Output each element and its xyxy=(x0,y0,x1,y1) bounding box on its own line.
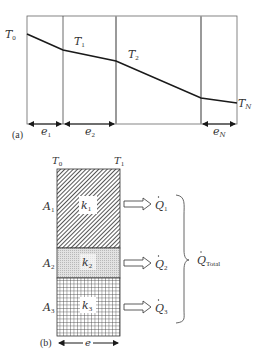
wall-frame xyxy=(27,16,237,124)
label-q2: Q2 xyxy=(155,258,168,272)
label-e2: e2 xyxy=(85,125,96,139)
heat-flow-arrow-3 xyxy=(124,301,151,313)
label-a3: A3 xyxy=(42,301,55,315)
label-q-total: QTotal xyxy=(197,254,220,268)
summation-brace xyxy=(176,195,189,323)
label-en: eN xyxy=(213,125,227,139)
label-e: e xyxy=(85,337,91,348)
figure-a-multilayer-wall: T0 T1 T2 TN e1 e2 eN (a) xyxy=(5,16,252,141)
label-face-t1: T1 xyxy=(114,155,125,168)
q1-dot xyxy=(158,196,159,197)
composite-wall-diagram: T0 T1 T2 TN e1 e2 eN (a) T0 T1 k1 k2 k3 … xyxy=(0,0,260,362)
label-a1: A1 xyxy=(42,200,55,214)
q3-dot xyxy=(158,299,159,300)
label-e1: e1 xyxy=(41,125,52,139)
heat-flow-arrow-2 xyxy=(124,257,151,269)
q2-dot xyxy=(158,255,159,256)
label-q3: Q3 xyxy=(155,302,168,316)
label-t0: T0 xyxy=(5,28,16,42)
heat-flow-arrow-1 xyxy=(124,198,151,210)
label-t1: T1 xyxy=(74,35,85,49)
label-a2: A2 xyxy=(42,257,55,271)
label-t2: T2 xyxy=(128,48,139,62)
figure-b-parallel-layers: T0 T1 k1 k2 k3 A1 A2 A3 Q1 Q2 Q3 QTotal xyxy=(40,155,220,349)
label-tn: TN xyxy=(238,97,252,111)
qtotal-dot xyxy=(200,251,201,252)
label-q1: Q1 xyxy=(155,199,168,213)
label-face-t0: T0 xyxy=(52,155,63,168)
temperature-profile-line xyxy=(27,34,237,103)
figure-a-tag: (a) xyxy=(12,129,23,141)
figure-b-tag: (b) xyxy=(40,337,52,349)
